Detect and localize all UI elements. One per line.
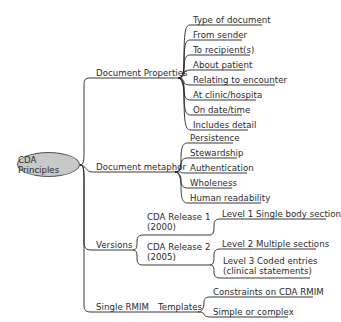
root-node[interactable]: CDA Principles xyxy=(17,152,80,177)
leaf-to-recipients[interactable]: To recipient(s) xyxy=(193,45,254,55)
node-cda-release-2[interactable]: CDA Release 2 (2005) xyxy=(147,242,211,262)
leaf-type-of-document[interactable]: Type of document xyxy=(193,15,271,25)
leaf-persistence[interactable]: Persistence xyxy=(190,133,240,143)
branch-document-metaphor[interactable]: Document metaphor xyxy=(96,162,186,172)
level-3-line1: Level 3 Coded entries xyxy=(223,256,318,266)
leaf-about-patient[interactable]: About patient xyxy=(193,60,252,70)
connector-single-rmim xyxy=(80,165,153,312)
branch-versions[interactable]: Versions xyxy=(96,240,132,250)
leaf-on-date-time[interactable]: On date/time xyxy=(193,105,250,115)
leaf-wholeness[interactable]: Wholeness xyxy=(190,178,237,188)
release-1-year: (2000) xyxy=(147,222,211,232)
leaf-simple-or-complex[interactable]: Simple or complex xyxy=(213,307,294,317)
level-3-line2: (clinical statements) xyxy=(223,266,318,276)
leaf-level-2[interactable]: Level 2 Multiple sections xyxy=(222,239,329,249)
branch-document-properties[interactable]: Document Properties xyxy=(96,68,188,78)
connector-versions xyxy=(80,165,133,250)
leaf-level-3[interactable]: Level 3 Coded entries (clinical statemen… xyxy=(223,256,318,276)
root-label: CDA Principles xyxy=(18,155,79,175)
release-2-name: CDA Release 2 xyxy=(147,242,211,252)
release-2-year: (2005) xyxy=(147,252,211,262)
branch-single-rmim[interactable]: Single RMIM xyxy=(96,302,149,312)
node-cda-release-1[interactable]: CDA Release 1 (2000) xyxy=(147,212,211,232)
leaf-authentication[interactable]: Authentication xyxy=(190,163,254,173)
leaf-from-sender[interactable]: From sender xyxy=(193,30,247,40)
release-1-name: CDA Release 1 xyxy=(147,212,211,222)
leaf-at-clinic-hospital[interactable]: At clinic/hospita xyxy=(193,90,262,100)
leaf-includes-detail[interactable]: Includes detail xyxy=(193,120,256,130)
leaf-level-1[interactable]: Level 1 Single body section xyxy=(222,209,341,219)
leaf-human-readability[interactable]: Human readability xyxy=(190,193,270,203)
connector-document-properties xyxy=(80,78,178,165)
node-templates[interactable]: Templates xyxy=(158,302,202,312)
leaf-constraints-on-cda-rmim[interactable]: Constraints on CDA RMIM xyxy=(213,287,324,297)
leaf-relating-to-encounter[interactable]: Relating to encounter xyxy=(193,75,287,85)
leaf-stewardship[interactable]: Stewardship xyxy=(190,148,244,158)
